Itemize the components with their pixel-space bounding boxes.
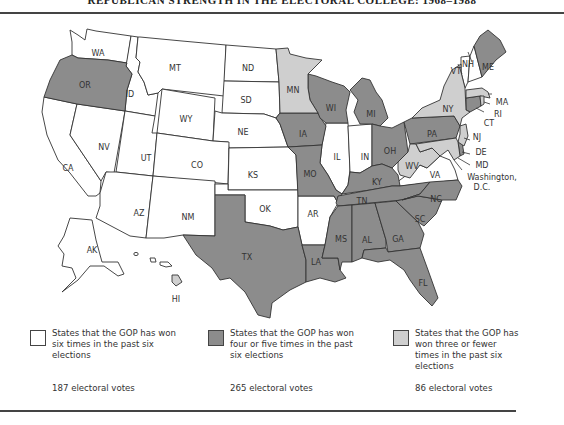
label-MI: MI <box>366 110 375 119</box>
state-RI <box>480 96 484 106</box>
dc-pointer-line <box>454 160 462 170</box>
label-GA: GA <box>392 235 404 244</box>
label-IN: IN <box>361 153 369 162</box>
label-SD: SD <box>240 96 251 105</box>
label-PA: PA <box>427 130 437 139</box>
label-RI: RI <box>494 110 502 119</box>
state-MT <box>136 37 226 96</box>
label-NH: NH <box>462 60 474 69</box>
label-WI: WI <box>326 104 336 113</box>
hawaii-island-maui <box>160 262 172 267</box>
label-CT: CT <box>484 119 495 128</box>
label-HI: HI <box>172 295 180 304</box>
label-NY: NY <box>443 105 454 114</box>
legend-text: States that the GOP has won three or few… <box>415 328 520 372</box>
label-AR: AR <box>307 210 318 219</box>
label-DE: DE <box>475 148 486 157</box>
swatch-dark-gray <box>208 330 224 346</box>
legend-text: States that the GOP has won four or five… <box>230 328 355 361</box>
label-MT: MT <box>169 64 181 73</box>
label-TN: TN <box>356 197 368 206</box>
state-AK <box>58 218 124 292</box>
state-HI <box>172 275 182 286</box>
state-KS <box>228 147 298 190</box>
label-WY: WY <box>180 115 193 124</box>
label-OR: OR <box>79 81 91 90</box>
label-ID: ID <box>126 90 135 99</box>
label-MN: MN <box>287 86 300 95</box>
us-electoral-map: WA OR ID MT WY ND SD NE NV UT CO CA KS A… <box>0 14 564 324</box>
label-AL: AL <box>362 236 372 245</box>
md-pointer-line <box>458 158 470 165</box>
label-ME: ME <box>482 63 494 72</box>
label-NV: NV <box>98 143 110 152</box>
label-IA: IA <box>299 130 307 139</box>
label-NE: NE <box>237 128 248 137</box>
label-WA: WA <box>92 49 105 58</box>
label-TX: TX <box>241 253 253 262</box>
bottom-rule <box>0 410 516 412</box>
label-LA: LA <box>311 258 322 267</box>
hawaii-island-kauai <box>134 252 138 255</box>
label-VA: VA <box>430 171 441 180</box>
hawaii-island-oahu <box>150 258 156 262</box>
label-OH: OH <box>384 147 396 156</box>
state-MA <box>466 88 490 98</box>
label-CO: CO <box>191 161 203 170</box>
legend-item-three-or-fewer: States that the GOP has won three or few… <box>393 328 543 398</box>
legend-item-four-five-wins: States that the GOP has won four or five… <box>208 328 388 398</box>
swatch-white <box>30 330 46 346</box>
label-IL: IL <box>334 153 341 162</box>
ri-pointer-line <box>484 102 490 104</box>
legend-text: States that the GOP has won six times in… <box>52 328 177 361</box>
label-NC: NC <box>430 195 442 204</box>
legend-item-six-wins: States that the GOP has won six times in… <box>30 328 210 398</box>
electoral-votes: 86 electoral votes <box>415 383 492 394</box>
label-ND: ND <box>242 64 254 73</box>
state-IN <box>348 124 372 173</box>
label-UT: UT <box>141 154 152 163</box>
label-KS: KS <box>248 171 258 180</box>
label-SC: SC <box>415 215 426 224</box>
electoral-votes: 265 electoral votes <box>230 383 313 394</box>
ct-pointer-line <box>476 108 484 112</box>
state-NM <box>146 176 215 238</box>
state-FL <box>362 248 438 306</box>
label-CA: CA <box>62 164 74 173</box>
swatch-light-gray <box>393 330 409 346</box>
label-DC-line1: Washington, <box>467 173 517 182</box>
label-FL: FL <box>418 279 428 288</box>
label-DC-line2: D.C. <box>474 183 491 192</box>
label-MS: MS <box>335 235 347 244</box>
label-KY: KY <box>372 178 382 187</box>
label-MA: MA <box>496 98 509 107</box>
map-title: REPUBLICAN STRENGTH IN THE ELECTORAL COL… <box>0 0 564 6</box>
label-WV: WV <box>405 162 419 171</box>
label-VT: VT <box>451 67 461 76</box>
label-OK: OK <box>259 205 271 214</box>
label-MO: MO <box>303 170 316 179</box>
label-NJ: NJ <box>473 133 481 142</box>
state-AZ <box>96 172 153 238</box>
label-MD: MD <box>475 161 488 170</box>
label-NM: NM <box>182 213 195 222</box>
electoral-votes: 187 electoral votes <box>52 383 135 394</box>
label-AZ: AZ <box>134 209 145 218</box>
label-AK: AK <box>87 246 98 255</box>
